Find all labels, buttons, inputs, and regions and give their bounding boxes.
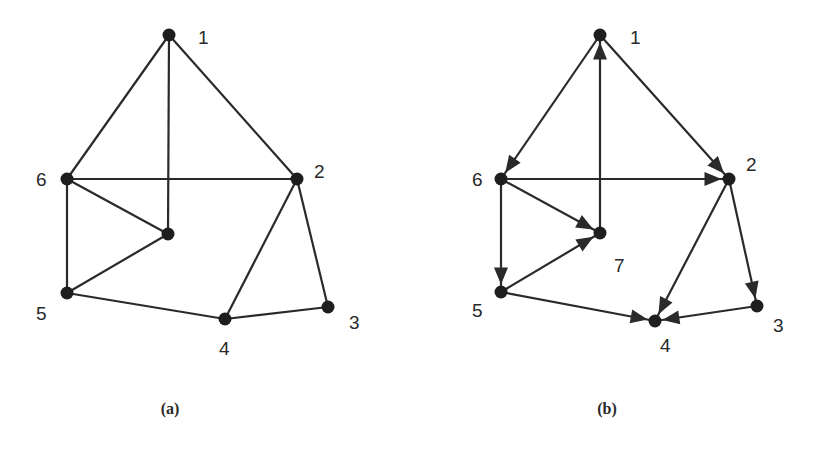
node-label-3: 3 [773, 315, 784, 336]
node-4 [219, 313, 232, 326]
undirected-graph-panel-a: 123456 (a) [36, 27, 360, 418]
edge-6-7 [67, 179, 168, 234]
caption-a: (a) [161, 400, 180, 418]
arrowhead-icon [505, 155, 520, 173]
graph-figure: 123456 (a) 1234567 (b) [0, 0, 821, 455]
arrowhead-icon [745, 281, 759, 299]
edge-1-2 [169, 35, 297, 179]
node-label-6: 6 [472, 169, 483, 190]
node-3 [322, 301, 335, 314]
arrowhead-icon [575, 237, 593, 252]
edge-5-4 [67, 293, 225, 319]
node-6 [61, 173, 74, 186]
node-label-7: 7 [614, 255, 625, 276]
caption-b: (b) [597, 400, 617, 418]
edge-1-2 [600, 35, 729, 179]
edge-1-6 [501, 35, 600, 179]
arrowhead-icon [593, 43, 607, 60]
node-7 [162, 228, 175, 241]
node-7 [594, 227, 607, 240]
node-5 [61, 287, 74, 300]
edges-b [494, 35, 759, 324]
node-label-1: 1 [198, 27, 209, 48]
edge-2-3 [297, 179, 328, 307]
node-label-1: 1 [630, 27, 641, 48]
node-5 [495, 286, 508, 299]
arrowhead-icon [705, 172, 722, 186]
edge-1-6 [67, 35, 169, 179]
edge-1-7 [168, 35, 169, 234]
node-labels-b: 1234567 [472, 27, 784, 356]
node-label-5: 5 [472, 300, 483, 321]
node-6 [495, 173, 508, 186]
edge-5-7 [67, 234, 168, 293]
edge-4-3 [225, 307, 328, 319]
node-4 [649, 315, 662, 328]
nodes-a [61, 29, 335, 326]
node-label-2: 2 [746, 154, 757, 175]
arrowhead-icon [630, 310, 648, 324]
arrowhead-icon [494, 268, 508, 285]
node-1 [163, 29, 176, 42]
arrowhead-icon [575, 215, 593, 229]
node-2 [291, 173, 304, 186]
node-label-5: 5 [36, 303, 47, 324]
edges-a [67, 35, 328, 319]
node-1 [594, 29, 607, 42]
directed-graph-panel-b: 1234567 (b) [472, 27, 784, 418]
node-label-4: 4 [219, 338, 230, 359]
node-label-2: 2 [314, 161, 325, 182]
node-label-6: 6 [36, 169, 47, 190]
arrowhead-icon [662, 311, 680, 325]
node-label-3: 3 [349, 312, 360, 333]
edge-2-4 [225, 179, 297, 319]
node-3 [751, 300, 764, 313]
node-label-4: 4 [660, 335, 671, 356]
node-2 [723, 173, 736, 186]
